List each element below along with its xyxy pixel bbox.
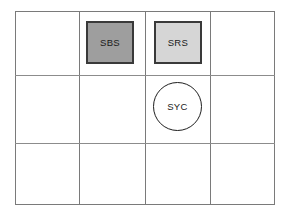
node-syc[interactable]: SYC [153, 82, 202, 131]
grid-line-horizontal-2 [15, 143, 275, 144]
node-sbs[interactable]: SBS [86, 21, 134, 64]
node-srs-label: SRS [168, 37, 189, 48]
node-srs[interactable]: SRS [154, 21, 202, 64]
diagram-canvas: SBS SRS SYC [0, 0, 288, 215]
grid-line-vertical-3 [210, 11, 211, 205]
node-syc-label: SYC [167, 101, 188, 112]
node-sbs-label: SBS [100, 37, 120, 48]
grid-line-vertical-1 [79, 11, 80, 205]
grid-line-vertical-2 [145, 11, 146, 205]
grid-line-horizontal-1 [15, 75, 275, 76]
